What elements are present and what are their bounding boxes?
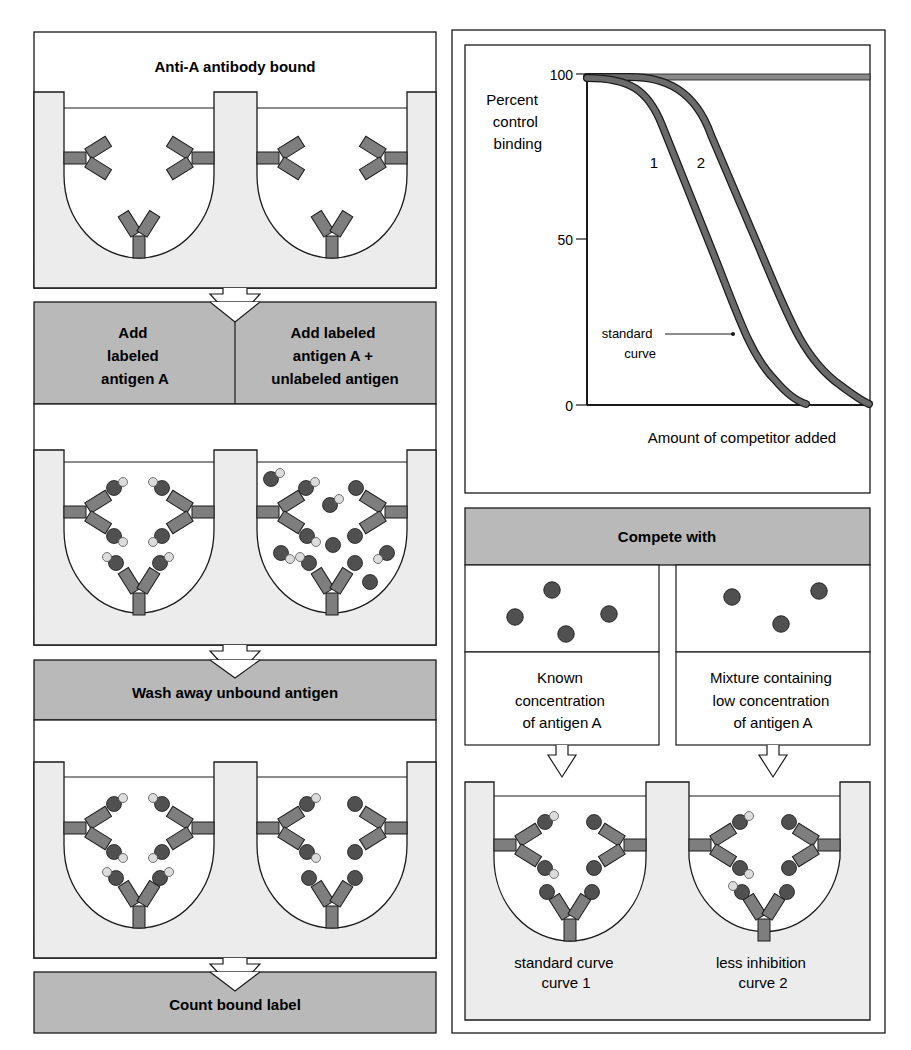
ytick-50: 50 xyxy=(557,232,573,248)
step4-title: Count bound label xyxy=(169,996,301,1013)
compete-title: Compete with xyxy=(618,528,716,545)
left-panel: Anti-A antibody bound Add labele xyxy=(34,32,436,1033)
ytick-100: 100 xyxy=(550,67,574,83)
step3-title: Wash away unbound antigen xyxy=(132,684,338,701)
step1-title: Anti-A antibody bound xyxy=(154,58,315,75)
x-axis-label: Amount of competitor added xyxy=(648,429,836,446)
mixture-box: Mixture containing low concentration of … xyxy=(676,565,870,745)
diagram-canvas: Anti-A antibody bound Add labele xyxy=(0,0,911,1050)
known-concentration-box: Known concentration of antigen A xyxy=(465,565,659,745)
curve-2-label: 2 xyxy=(697,154,705,171)
competition-chart: 100 50 0 Percent control binding Amount … xyxy=(465,45,870,493)
y-axis-label: Percent control binding xyxy=(486,91,542,152)
curve-1-label: 1 xyxy=(650,154,658,171)
ytick-0: 0 xyxy=(565,398,573,414)
right-panel: 100 50 0 Percent control binding Amount … xyxy=(452,30,885,1033)
